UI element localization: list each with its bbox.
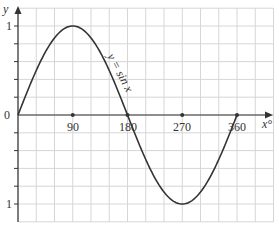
axis-point <box>71 113 75 117</box>
y-axis-arrow-icon <box>15 6 22 14</box>
x-tick-label-180: 180 <box>119 120 137 134</box>
x-tick-label-360: 360 <box>228 120 246 134</box>
y-axis-label: y <box>2 2 9 16</box>
y-tick-label-neg1: 1 <box>6 197 12 211</box>
axis-point <box>180 113 184 117</box>
x-tick-label-90: 90 <box>67 120 79 134</box>
sine-chart: y 1 0 1 90 180 270 360 x° y = sin x <box>0 0 279 228</box>
x-tick-label-270: 270 <box>173 120 191 134</box>
origin-label: 0 <box>4 108 10 122</box>
y-tick-label-1: 1 <box>6 19 12 33</box>
axis-point <box>235 113 239 117</box>
axis-point <box>126 113 130 117</box>
x-axis-label: x° <box>261 117 272 131</box>
